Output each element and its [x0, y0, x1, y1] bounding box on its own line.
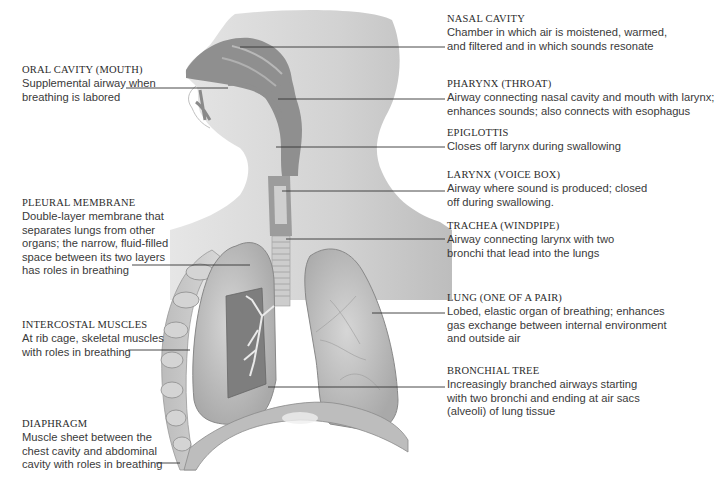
label-title: INTERCOSTAL MUSCLES [22, 318, 164, 332]
label-title: LARYNX (VOICE BOX) [447, 168, 647, 182]
label-diaphragm: DIAPHRAGM Muscle sheet between the chest… [22, 417, 163, 472]
label-description: Chamber in which air is moistened, warme… [447, 26, 667, 53]
label-title: TRACHEA (WINDPIPE) [447, 219, 614, 233]
label-pharynx: PHARYNX (THROAT) Airway connecting nasal… [447, 77, 714, 118]
label-nasal-cavity: NASAL CAVITY Chamber in which air is moi… [447, 12, 667, 53]
label-description: Increasingly branched airways starting w… [447, 378, 640, 419]
lung-cutaway [226, 288, 266, 398]
label-larynx: LARYNX (VOICE BOX) Airway where sound is… [447, 168, 647, 209]
label-intercostal-muscles: INTERCOSTAL MUSCLES At rib cage, skeleta… [22, 318, 164, 359]
label-bronchial-tree: BRONCHIAL TREE Increasingly branched air… [447, 364, 640, 419]
label-lung: LUNG (ONE OF A PAIR) Lobed, elastic orga… [447, 291, 667, 346]
label-title: ORAL CAVITY (MOUTH) [22, 63, 156, 77]
label-title: EPIGLOTTIS [447, 126, 621, 140]
label-title: NASAL CAVITY [447, 12, 667, 26]
label-description: Airway connecting nasal cavity and mouth… [447, 91, 714, 118]
label-title: PHARYNX (THROAT) [447, 77, 714, 91]
label-description: Supplemental airway when breathing is la… [22, 77, 156, 104]
label-title: PLEURAL MEMBRANE [22, 196, 168, 210]
label-oral-cavity: ORAL CAVITY (MOUTH) Supplemental airway … [22, 63, 156, 104]
label-description: Airway where sound is produced; closed o… [447, 182, 647, 209]
label-title: BRONCHIAL TREE [447, 364, 640, 378]
label-title: DIAPHRAGM [22, 417, 163, 431]
label-description: Lobed, elastic organ of breathing; enhan… [447, 305, 667, 346]
label-description: At rib cage, skeletal muscles with roles… [22, 332, 164, 359]
label-trachea: TRACHEA (WINDPIPE) Airway connecting lar… [447, 219, 614, 260]
label-description: Airway connecting larynx with two bronch… [447, 233, 614, 260]
label-title: LUNG (ONE OF A PAIR) [447, 291, 667, 305]
label-pleural-membrane: PLEURAL MEMBRANE Double-layer membrane t… [22, 196, 168, 278]
label-description: Double-layer membrane that separates lun… [22, 210, 168, 278]
label-description: Closes off larynx during swallowing [447, 140, 621, 154]
label-epiglottis: EPIGLOTTIS Closes off larynx during swal… [447, 126, 621, 154]
label-description: Muscle sheet between the chest cavity an… [22, 431, 163, 472]
